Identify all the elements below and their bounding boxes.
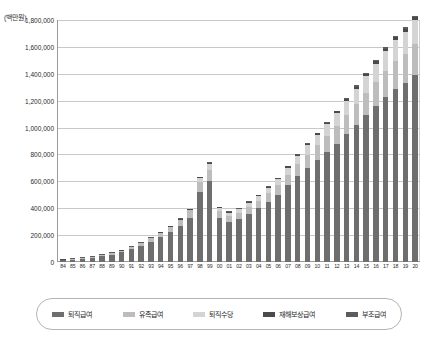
x-axis-tick-label: 08 — [293, 263, 303, 269]
bar-segment — [80, 259, 85, 262]
bar-segment — [354, 104, 359, 124]
bar-group — [344, 98, 349, 262]
bar-segment — [373, 64, 378, 83]
bar-group — [354, 85, 359, 262]
x-axis-tick-label: 96 — [175, 263, 185, 269]
bar-segment — [315, 160, 320, 262]
bar-group — [168, 226, 173, 262]
bar-segment — [363, 93, 368, 115]
x-axis-tick-label: 99 — [205, 263, 215, 269]
bar-segment — [207, 181, 212, 262]
x-axis-tick-label: 00 — [215, 263, 225, 269]
bar-segment — [158, 237, 163, 262]
y-axis-tick-label: 600,000 — [4, 178, 54, 185]
bar-segment — [403, 54, 408, 83]
bar-segment — [363, 76, 368, 93]
x-axis-tick-label: 11 — [322, 263, 332, 269]
x-axis-tick-label: 09 — [303, 263, 313, 269]
x-axis-tick-label: 90 — [117, 263, 127, 269]
bar-group — [226, 211, 231, 262]
x-axis-tick-label: 06 — [273, 263, 283, 269]
bar-group — [363, 73, 368, 262]
x-axis-tick-label: 12 — [332, 263, 342, 269]
bar-segment — [373, 82, 378, 106]
bar-segment — [275, 195, 280, 262]
bar-group — [383, 47, 388, 262]
legend-item[interactable]: 부조급여 — [346, 309, 386, 319]
bar-group — [403, 27, 408, 262]
bar-group — [393, 36, 398, 262]
bar-group — [119, 250, 124, 262]
bar-segment — [305, 145, 310, 154]
bar-group — [109, 252, 114, 262]
legend-item[interactable]: 퇴직수당 — [193, 309, 233, 319]
y-axis-tick-label: 0 — [4, 259, 54, 266]
bar-group — [207, 162, 212, 262]
bar-segment — [393, 89, 398, 262]
bar-group — [295, 154, 300, 262]
legend-item[interactable]: 유족급여 — [123, 309, 163, 319]
bar-segment — [334, 126, 339, 143]
x-axis-tick-label: 18 — [391, 263, 401, 269]
y-axis-tick-label: 1,600,000 — [4, 43, 54, 50]
x-axis-tick-label: 15 — [361, 263, 371, 269]
x-axis-tick-label: 89 — [107, 263, 117, 269]
bar-segment — [148, 242, 153, 262]
bar-segment — [295, 164, 300, 176]
x-axis-tick-label: 85 — [68, 263, 78, 269]
bar-segment — [324, 152, 329, 262]
bar-segment — [178, 226, 183, 262]
x-axis-tick-label: 03 — [244, 263, 254, 269]
bar-segment — [109, 255, 114, 262]
bar-segment — [246, 207, 251, 214]
legend-swatch-icon — [263, 312, 275, 317]
legend-swatch-icon — [346, 312, 358, 317]
bar-group — [285, 166, 290, 262]
legend-item-label: 부조급여 — [362, 309, 386, 319]
bar-segment — [393, 61, 398, 88]
bar-group — [197, 177, 202, 262]
bar-segment — [295, 156, 300, 164]
x-axis-tick-label: 98 — [195, 263, 205, 269]
y-axis-tick-label: 1,800,000 — [4, 17, 54, 24]
bar-segment — [119, 252, 124, 262]
bar-group — [266, 186, 271, 262]
legend-item[interactable]: 재해보상급여 — [263, 309, 315, 319]
bar-group — [138, 242, 143, 262]
bar-segment — [393, 40, 398, 61]
y-axis-tick-label: 800,000 — [4, 151, 54, 158]
bar-segment — [324, 136, 329, 152]
bar-segment — [285, 175, 290, 186]
bar-group — [373, 60, 378, 262]
legend-swatch-icon — [193, 312, 205, 317]
legend-item-label: 유족급여 — [139, 309, 163, 319]
x-axis-tick-label: 02 — [234, 263, 244, 269]
x-axis-tick-label: 92 — [136, 263, 146, 269]
bar-segment — [334, 113, 339, 126]
bar-segment — [246, 214, 251, 262]
bar-segment — [256, 208, 261, 262]
bar-group — [412, 16, 417, 262]
bar-segment — [354, 125, 359, 262]
x-axis-tick-label: 01 — [224, 263, 234, 269]
bar-group — [246, 201, 251, 262]
bar-group — [315, 133, 320, 263]
legend-item-label: 퇴직급여 — [68, 309, 92, 319]
legend-item[interactable]: 퇴직급여 — [52, 309, 92, 319]
bar-segment — [344, 115, 349, 134]
x-axis-tick-label: 94 — [156, 263, 166, 269]
bar-segment — [344, 101, 349, 116]
bar-segment — [373, 106, 378, 262]
x-axis-tick-label: 97 — [185, 263, 195, 269]
bar-segment — [197, 192, 202, 262]
bar-group — [70, 258, 75, 262]
bar-group — [129, 246, 134, 262]
x-axis-tick-label: 07 — [283, 263, 293, 269]
legend-swatch-icon — [123, 312, 135, 317]
chart-legend: 퇴직급여유족급여퇴직수당재해보상급여부조급여 — [36, 298, 402, 330]
bar-group — [187, 209, 192, 262]
x-axis-tick-label: 19 — [400, 263, 410, 269]
bar-segment — [285, 185, 290, 262]
bar-segment — [363, 115, 368, 262]
bar-segment — [305, 155, 310, 168]
